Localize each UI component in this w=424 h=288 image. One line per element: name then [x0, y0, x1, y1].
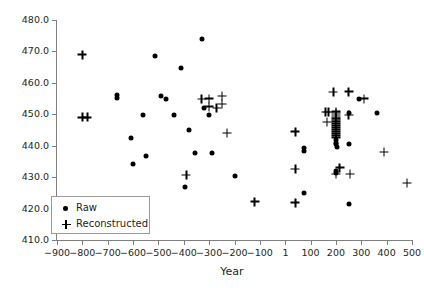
data-point-reconstructed: [291, 165, 300, 174]
data-point-reconstructed: [402, 179, 411, 188]
legend-label-raw: Raw: [76, 202, 97, 214]
data-point-raw: [153, 53, 158, 58]
data-point-raw: [374, 110, 379, 115]
x-axis-tick-label: −400: [171, 247, 197, 258]
x-axis-tick: [235, 241, 236, 245]
data-point-reconstructed: [331, 123, 340, 132]
data-point-raw: [183, 184, 188, 189]
data-point-reconstructed: [212, 104, 221, 113]
data-point-raw: [115, 95, 120, 100]
data-point-raw: [333, 170, 338, 175]
x-axis-tick: [311, 241, 312, 245]
legend-marker-plus-icon: [60, 218, 72, 230]
data-point-raw: [302, 191, 307, 196]
data-point-raw: [115, 92, 120, 97]
data-point-reconstructed: [217, 100, 226, 109]
data-point-reconstructed: [331, 129, 340, 138]
data-point-reconstructed: [344, 87, 353, 96]
data-point-reconstructed: [331, 109, 340, 118]
data-point-reconstructed: [380, 148, 389, 157]
data-point-reconstructed: [197, 95, 206, 104]
data-point-raw: [333, 168, 338, 173]
data-point-reconstructed: [331, 127, 340, 136]
data-point-raw: [199, 36, 204, 41]
y-axis-tick-label: 450.0: [22, 109, 49, 119]
data-point-reconstructed: [205, 94, 214, 103]
data-point-reconstructed: [329, 88, 338, 97]
y-axis-tick: [52, 20, 56, 21]
data-point-reconstructed: [250, 197, 259, 206]
x-axis-tick-label: 1: [282, 247, 288, 258]
x-axis-tick: [184, 241, 185, 245]
data-point-raw: [356, 96, 361, 101]
data-point-reconstructed: [222, 129, 231, 138]
data-point-raw: [333, 138, 338, 143]
data-point-reconstructed: [331, 114, 340, 123]
x-axis-tick: [260, 241, 261, 245]
x-axis-tick-label: −800: [69, 247, 95, 258]
chart-legend: Raw Reconstructed: [51, 196, 150, 234]
x-axis-tick-label: 200: [327, 247, 345, 258]
data-point-raw: [333, 140, 338, 145]
data-point-raw: [346, 201, 351, 206]
data-point-raw: [141, 112, 146, 117]
data-point-reconstructed: [331, 131, 340, 140]
data-point-reconstructed: [321, 108, 330, 117]
y-axis-tick: [52, 83, 56, 84]
data-point-raw: [179, 65, 184, 70]
x-axis-tick: [361, 241, 362, 245]
y-axis-tick: [52, 177, 56, 178]
y-axis-tick-label: 460.0: [22, 78, 49, 88]
x-axis-tick-label: −700: [95, 247, 121, 258]
x-axis-tick: [82, 241, 83, 245]
x-axis-tick: [108, 241, 109, 245]
data-point-raw: [186, 127, 191, 132]
legend-item-raw: Raw: [60, 201, 97, 215]
data-point-reconstructed: [323, 118, 332, 127]
data-point-reconstructed: [324, 108, 333, 117]
data-point-raw: [209, 151, 214, 156]
x-axis-tick-label: 300: [352, 247, 370, 258]
x-axis-tick: [209, 241, 210, 245]
x-axis-title-label: Year: [220, 265, 243, 278]
data-point-raw: [128, 135, 133, 140]
data-point-reconstructed: [345, 170, 354, 179]
x-axis-tick-label: −100: [247, 247, 273, 258]
y-axis-tick-labels: 410.0420.0430.0440.0450.0460.0470.0480.0: [0, 0, 49, 288]
data-point-reconstructed: [291, 127, 300, 136]
data-point-raw: [207, 112, 212, 117]
data-point-raw: [346, 141, 351, 146]
legend-marker-circle-icon: [60, 202, 72, 214]
data-point-raw: [302, 149, 307, 154]
x-axis-tick: [285, 241, 286, 245]
data-point-reconstructed: [331, 117, 340, 126]
x-axis-tick: [387, 241, 388, 245]
x-axis-tick-label: 400: [378, 247, 396, 258]
data-point-raw: [302, 145, 307, 150]
data-point-raw: [171, 112, 176, 117]
x-axis-tick: [336, 241, 337, 245]
y-axis-tick-label: 440.0: [22, 141, 49, 151]
y-axis-tick-label: 480.0: [22, 15, 49, 25]
y-axis-tick-label: 470.0: [22, 46, 49, 56]
y-axis-tick-label: 410.0: [22, 235, 49, 245]
data-point-raw: [131, 161, 136, 166]
data-point-reconstructed: [331, 125, 340, 134]
data-point-reconstructed: [217, 92, 226, 101]
data-point-raw: [164, 96, 169, 101]
data-point-reconstructed: [359, 94, 368, 103]
x-axis-tick-label: −200: [221, 247, 247, 258]
data-point-raw: [144, 154, 149, 159]
data-point-reconstructed: [331, 111, 340, 120]
y-axis-tick: [52, 146, 56, 147]
data-point-reconstructed: [331, 121, 340, 130]
x-axis-tick-label: 100: [301, 247, 319, 258]
x-axis-tick-label: 500: [403, 247, 421, 258]
y-axis-tick: [52, 114, 56, 115]
data-point-reconstructed: [78, 50, 87, 59]
data-point-raw: [193, 151, 198, 156]
x-axis-tick: [57, 241, 58, 245]
data-point-raw: [335, 144, 340, 149]
x-axis-tick: [158, 241, 159, 245]
y-axis-tick: [52, 51, 56, 52]
